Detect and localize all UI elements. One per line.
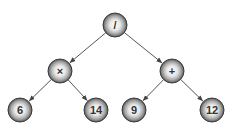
tree-node-n9: 9 bbox=[122, 98, 146, 122]
edge-add-to-n12 bbox=[181, 79, 203, 101]
node-label: 14 bbox=[90, 104, 103, 116]
edge-root-to-add bbox=[124, 33, 162, 63]
tree-node-n12: 12 bbox=[200, 98, 224, 122]
edge-root-to-mul bbox=[70, 33, 106, 63]
expression-tree-diagram: /×+614912 bbox=[0, 0, 232, 132]
tree-node-n14: 14 bbox=[84, 98, 108, 122]
nodes: /×+614912 bbox=[8, 13, 224, 122]
edge-add-to-n9 bbox=[143, 80, 164, 101]
node-label: + bbox=[169, 65, 175, 77]
edge-mul-to-n6 bbox=[29, 79, 51, 101]
tree-node-mul: × bbox=[48, 59, 72, 83]
tree-node-root: / bbox=[103, 13, 127, 37]
node-label: 12 bbox=[206, 104, 218, 116]
tree-node-add: + bbox=[160, 59, 184, 83]
node-label: / bbox=[113, 19, 116, 31]
node-label: × bbox=[57, 65, 63, 77]
edge-mul-to-n14 bbox=[68, 80, 87, 101]
node-label: 6 bbox=[17, 104, 23, 116]
node-label: 9 bbox=[131, 104, 137, 116]
tree-node-n6: 6 bbox=[8, 98, 32, 122]
